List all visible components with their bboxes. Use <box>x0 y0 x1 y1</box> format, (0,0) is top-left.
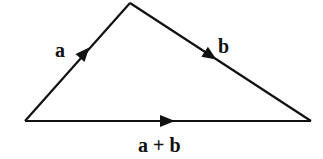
label-a-plus-b: a + b <box>138 134 181 156</box>
vector-a-line <box>25 3 130 121</box>
vector-triangle-diagram: a b a + b <box>0 0 323 159</box>
label-b: b <box>218 35 229 57</box>
label-a: a <box>55 39 65 61</box>
vector-b-line <box>130 3 311 121</box>
arrowhead-sum-icon <box>160 115 175 127</box>
arrowhead-b-icon <box>201 47 219 65</box>
